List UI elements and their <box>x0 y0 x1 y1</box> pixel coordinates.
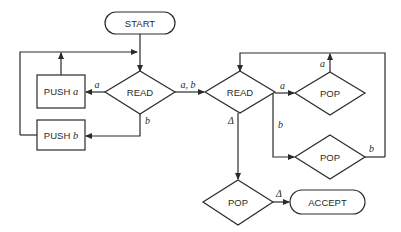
read2-node[interactable]: READ <box>205 71 275 113</box>
edge-label-read2-delta: Δ <box>227 115 234 126</box>
edge-label-read2-b: b <box>278 119 283 130</box>
push-a-label: PUSH a <box>44 86 78 97</box>
pop1-label: POP <box>320 88 340 99</box>
pop1-node[interactable]: POP <box>295 72 365 115</box>
edge-label-b: b <box>145 115 150 126</box>
accept-node[interactable]: ACCEPT <box>290 190 365 214</box>
edge-loop-top-right <box>240 53 385 157</box>
edge-read2-pop2 <box>273 93 294 157</box>
read1-node[interactable]: READ <box>105 71 175 114</box>
push-b-node[interactable]: PUSH b <box>37 120 85 150</box>
push-a-node[interactable]: PUSH a <box>37 75 85 108</box>
accept-label: ACCEPT <box>308 197 347 208</box>
edge-label-ab: a, b <box>181 79 196 90</box>
flowchart-canvas: START READ a PUSH a b PUSH b a, b READ a <box>0 0 401 232</box>
edge-label-pop2-b: b <box>369 143 374 154</box>
read1-label: READ <box>127 87 154 98</box>
pop2-node[interactable]: POP <box>295 135 365 179</box>
edge-read1-push-b <box>86 114 140 136</box>
read2-label: READ <box>227 87 254 98</box>
pop2-label: POP <box>320 152 340 163</box>
push-b-label: PUSH b <box>44 130 78 141</box>
pop3-label: POP <box>228 197 248 208</box>
start-node[interactable]: START <box>105 12 175 34</box>
edge-label-a: a <box>95 79 100 90</box>
edge-label-pop1-a: a <box>320 58 325 69</box>
edge-label-pop3-delta: Δ <box>275 188 282 199</box>
pop3-node[interactable]: POP <box>203 180 273 225</box>
edge-label-read2-a: a <box>280 80 285 91</box>
start-label: START <box>125 18 155 29</box>
